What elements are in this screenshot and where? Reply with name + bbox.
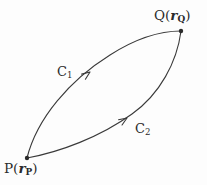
point-q-marker — [179, 29, 183, 33]
point-p-label: P(rP) — [4, 162, 37, 177]
curve-c2-label: C2 — [135, 122, 150, 137]
curve-c2-path — [27, 31, 181, 158]
point-q-label: Q(rQ) — [154, 9, 191, 24]
point-p-vector-symbol: r — [18, 160, 25, 176]
point-p-close-paren: ) — [32, 160, 37, 176]
curve-c2-subscript: 2 — [145, 127, 150, 137]
curve-c1-letter: C — [57, 64, 67, 79]
point-p-letter: P — [4, 160, 13, 176]
two-paths-diagram: Q(rQ) P(rP) C1 C2 — [0, 0, 207, 185]
curve-c2-letter: C — [135, 121, 145, 136]
point-q-letter: Q — [154, 7, 165, 23]
curve-c1-subscript: 1 — [67, 70, 72, 80]
curve-c1-path — [27, 31, 181, 158]
point-q-close-paren: ) — [185, 7, 190, 23]
curve-c1-label: C1 — [57, 65, 72, 80]
diagram-canvas — [0, 0, 207, 185]
